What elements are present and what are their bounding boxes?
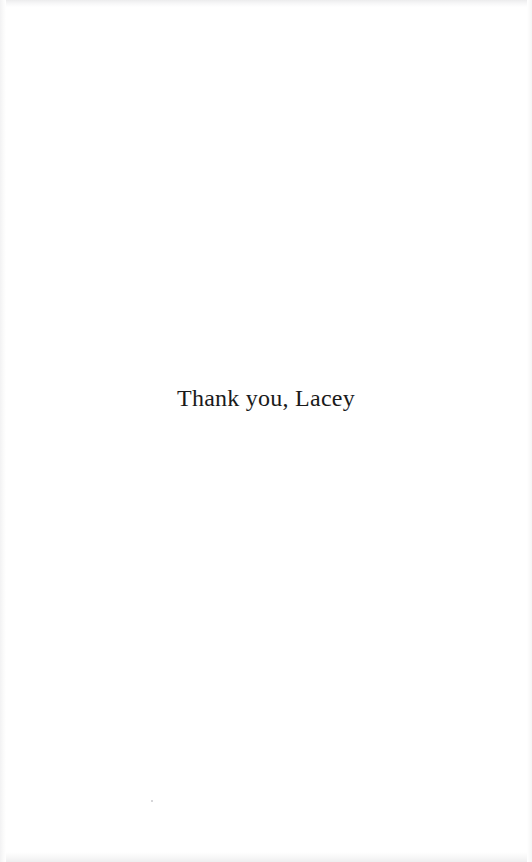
scanned-page: Thank you, Lacey — [0, 0, 532, 862]
scan-edge-right — [527, 0, 532, 862]
scan-edge-left — [0, 0, 6, 862]
scan-edge-top — [0, 0, 532, 7]
scan-edge-bottom — [0, 852, 532, 862]
dedication-line: Thank you, Lacey — [0, 383, 532, 413]
scan-speck — [151, 800, 153, 802]
